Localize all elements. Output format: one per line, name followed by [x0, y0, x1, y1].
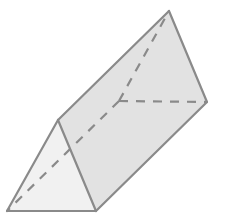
triangular-prism-diagram: [0, 0, 225, 224]
